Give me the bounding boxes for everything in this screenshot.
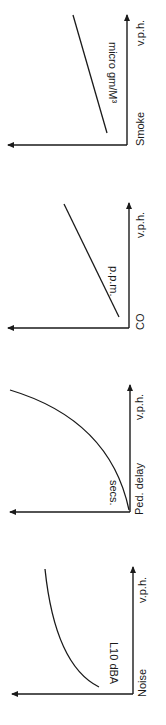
co-title: CO [134,314,146,331]
noise-y-label: L10 dBA [108,642,120,684]
co-x-label: v.p.h. [134,212,146,238]
noise-x-label: v.p.h. [136,577,148,603]
smoke-x-label: v.p.h. [134,20,146,46]
ped-y-label: secs. [108,480,120,506]
noise-title: Noise [136,669,148,697]
noise-curve [45,569,99,687]
ped-title: Ped. delay [133,463,145,515]
diagram-canvas [0,0,166,725]
ped-x-label: v.p.h. [133,394,145,420]
smoke-title: Smoke [134,112,146,146]
co-curve [64,204,119,317]
smoke-curve [73,15,107,133]
co-y-label: p.p.m. [108,266,120,297]
smoke-y-label: micro gm/M³ [107,42,119,103]
